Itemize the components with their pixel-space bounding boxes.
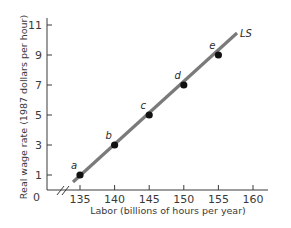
y-tick-label: 11 bbox=[28, 19, 42, 32]
origin-label: 0 bbox=[33, 191, 40, 204]
x-axis-label: Labor (billions of hours per year) bbox=[90, 205, 246, 216]
point-label-c: c bbox=[140, 100, 146, 111]
data-points: abcde bbox=[71, 40, 222, 179]
point-label-d: d bbox=[175, 70, 182, 81]
y-tick-label: 5 bbox=[35, 109, 42, 122]
x-ticks: 135140145150155160 bbox=[70, 185, 264, 206]
data-point-b bbox=[111, 141, 118, 148]
data-point-c bbox=[146, 111, 153, 118]
y-tick-label: 1 bbox=[35, 169, 42, 182]
point-label-a: a bbox=[71, 160, 77, 171]
point-label-e: e bbox=[209, 40, 215, 51]
y-tick-label: 7 bbox=[35, 79, 42, 92]
x-tick-label: 135 bbox=[70, 193, 91, 206]
data-point-a bbox=[76, 171, 83, 178]
data-point-d bbox=[180, 81, 187, 88]
y-ticks: 1357911 bbox=[28, 19, 52, 182]
data-point-e bbox=[215, 51, 222, 58]
ls-curve bbox=[73, 33, 237, 182]
y-tick-label: 9 bbox=[35, 49, 42, 62]
y-axis-label: Real wage rate (1987 dollars per hour) bbox=[18, 15, 29, 199]
ls-label: LS bbox=[240, 28, 253, 39]
point-label-b: b bbox=[105, 130, 111, 141]
y-tick-label: 3 bbox=[35, 139, 42, 152]
labor-supply-chart: 1357911 135140145150155160 0 LS abcde Re… bbox=[0, 0, 291, 228]
